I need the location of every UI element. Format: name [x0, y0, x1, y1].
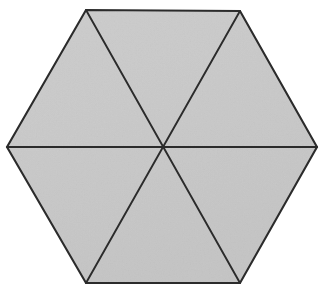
hexagon-figure: [0, 0, 324, 293]
figure-canvas: [0, 0, 324, 293]
